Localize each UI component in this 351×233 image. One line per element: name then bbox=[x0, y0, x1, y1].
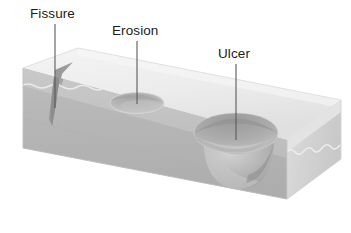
mucosal-lesion-diagram: Fissure Erosion Ulcer bbox=[0, 0, 351, 233]
label-ulcer: Ulcer bbox=[218, 46, 250, 61]
label-erosion: Erosion bbox=[112, 23, 158, 38]
label-fissure: Fissure bbox=[30, 6, 75, 21]
diagram-canvas: Fissure Erosion Ulcer bbox=[0, 0, 351, 233]
